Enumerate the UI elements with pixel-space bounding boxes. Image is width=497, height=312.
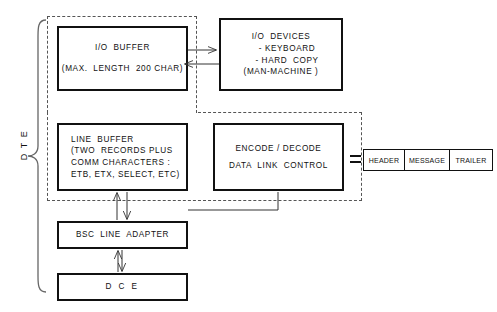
io-buffer-title: I/O BUFFER (95, 42, 150, 54)
io-devices-title: I/O DEVICES (252, 31, 311, 43)
diagram-canvas: D T E I/O BUFFER (MAX. LENGTH 200 CHAR) … (0, 0, 497, 312)
line-buffer-block: LINE BUFFER (TWO RECORDS PLUS COMM CHARA… (57, 123, 188, 191)
io-buffer-detail: (MAX. LENGTH 200 CHAR) (62, 63, 183, 75)
dte-label: D T E (19, 115, 29, 175)
line-buffer-title: LINE BUFFER (71, 134, 134, 146)
dte-brace (26, 18, 48, 294)
message-frame-group: HEADER MESSAGE TRAILER (363, 149, 493, 171)
data-link-equals-icon (348, 152, 362, 168)
bsc-line-adapter-title: BSC LINE ADAPTER (76, 229, 169, 241)
bsc-line-adapter-block: BSC LINE ADAPTER (57, 221, 188, 249)
io-devices-item-hardcopy: - HARD COPY (255, 55, 318, 67)
encode-decode-subtitle: DATA LINK CONTROL (229, 160, 328, 172)
frame-cell-header: HEADER (364, 150, 405, 170)
dte-brace-icon (26, 18, 48, 294)
io-devices-note: (MAN-MACHINE ) (244, 66, 319, 78)
dce-title: D C E (106, 281, 140, 293)
line-buffer-detail-3: ETB, ETX, SELECT, ETC) (71, 169, 180, 181)
frame-cell-trailer: TRAILER (450, 150, 492, 170)
dce-block: D C E (57, 273, 188, 301)
io-devices-item-keyboard: - KEYBOARD (259, 43, 316, 55)
line-buffer-detail-2: COMM CHARACTERS : (71, 157, 170, 169)
encode-decode-title: ENCODE / DECODE (236, 143, 322, 155)
dashed-seam-mask (48, 108, 196, 117)
line-buffer-detail-1: (TWO RECORDS PLUS (71, 145, 173, 157)
frame-cell-message: MESSAGE (405, 150, 450, 170)
arrow-adapter-to-dce (118, 250, 122, 272)
encode-decode-block: ENCODE / DECODE DATA LINK CONTROL (213, 123, 344, 191)
io-devices-block: I/O DEVICES - KEYBOARD - HARD COPY (MAN-… (219, 18, 343, 91)
io-buffer-block: I/O BUFFER (MAX. LENGTH 200 CHAR) (57, 26, 188, 91)
